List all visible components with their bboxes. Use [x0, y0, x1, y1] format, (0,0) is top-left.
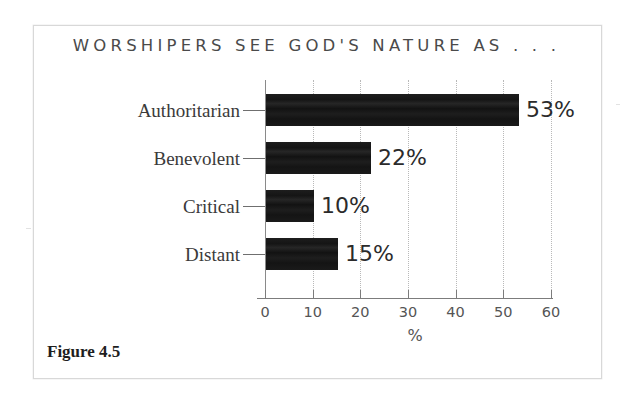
bar-benevolent	[266, 142, 371, 174]
xticklabel-60: 60	[542, 304, 560, 320]
xtick-50	[503, 290, 504, 299]
category-label-benevolent: Benevolent	[153, 148, 240, 170]
category-tick-benevolent	[243, 158, 266, 159]
scan-artifact-right	[616, 104, 620, 105]
bar-value-distant: 15%	[345, 243, 394, 265]
bar-value-benevolent: 22%	[378, 147, 427, 169]
figure-page: WORSHIPERS SEE GOD'S NATURE AS . . . Aut…	[0, 0, 633, 401]
x-axis-title: %	[407, 326, 422, 345]
category-tick-critical	[243, 206, 266, 207]
bar-critical	[266, 190, 314, 222]
xtick-30	[408, 290, 409, 299]
bar-distant	[266, 238, 338, 270]
xtick-10	[313, 290, 314, 299]
x-axis-line	[257, 298, 553, 299]
plot-area: 53% 22% 10% 15% 0 10 20 30 40 50 60 %	[265, 80, 551, 298]
bar-value-critical: 10%	[321, 195, 370, 217]
xtick-40	[456, 290, 457, 299]
xticklabel-20: 20	[351, 304, 369, 320]
bar-authoritarian	[266, 94, 519, 126]
category-label-authoritarian: Authoritarian	[138, 100, 240, 122]
xticklabel-10: 10	[303, 304, 321, 320]
xticklabel-30: 30	[399, 304, 417, 320]
chart-title: WORSHIPERS SEE GOD'S NATURE AS . . .	[33, 36, 600, 55]
xticklabel-50: 50	[494, 304, 512, 320]
xtick-20	[360, 290, 361, 299]
scan-artifact-left	[26, 228, 31, 229]
category-tick-authoritarian	[243, 110, 266, 111]
xticklabel-0: 0	[260, 304, 269, 320]
category-tick-distant	[243, 254, 266, 255]
xticklabel-40: 40	[446, 304, 464, 320]
xtick-60	[551, 290, 552, 299]
category-label-distant: Distant	[185, 244, 240, 266]
figure-caption: Figure 4.5	[47, 342, 120, 362]
xtick-0	[265, 290, 266, 299]
category-label-critical: Critical	[183, 196, 240, 218]
bar-value-authoritarian: 53%	[526, 99, 575, 121]
category-label-column: Authoritarian Benevolent Critical Distan…	[120, 80, 240, 298]
